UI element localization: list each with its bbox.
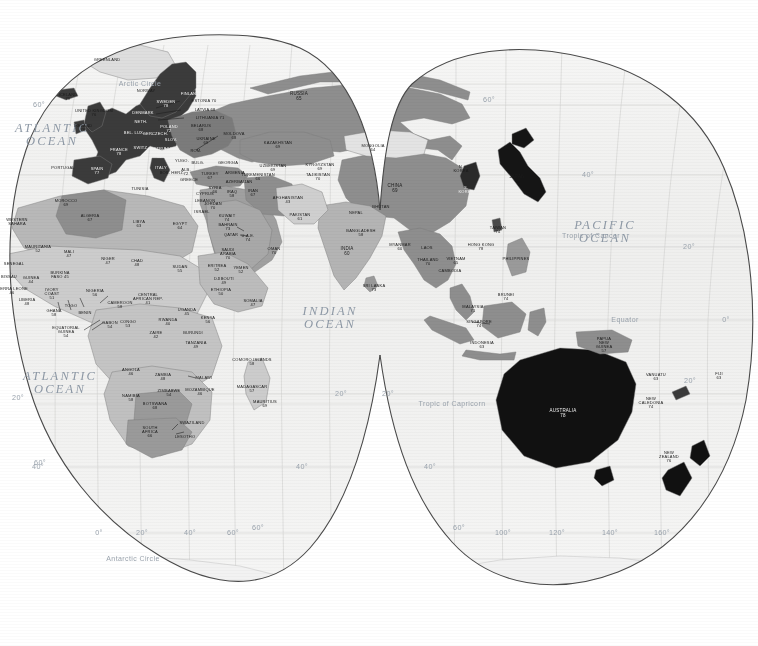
world-map: ATLANTIC OCEANATLANTIC OCEANINDIAN OCEAN… [0, 0, 758, 646]
land-kazakhstan [240, 132, 334, 166]
land-taiwan [492, 218, 502, 232]
land-algeria [56, 190, 126, 238]
map-canvas [0, 0, 758, 646]
